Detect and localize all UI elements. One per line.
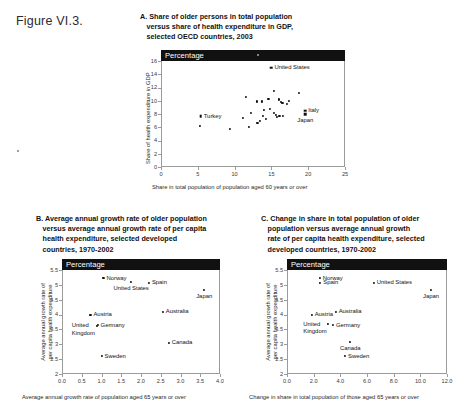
point-label-italy: Italy — [308, 107, 319, 113]
y-tick-mark — [59, 374, 62, 375]
x-tick-mark — [340, 374, 341, 377]
y-tick-mark — [158, 88, 161, 89]
data-point-italy — [304, 109, 307, 112]
point-label-sweden: Sweden — [105, 353, 126, 359]
x-tick-label: 4.0 — [216, 378, 224, 384]
data-point — [273, 90, 275, 92]
data-point — [278, 115, 280, 117]
point-label-spain: Spain — [323, 279, 338, 285]
x-tick-mark — [271, 167, 272, 170]
x-tick-label: 0.0 — [58, 378, 66, 384]
y-tick-mark — [59, 344, 62, 345]
x-tick-mark — [287, 374, 288, 377]
y-tick-mark — [59, 329, 62, 330]
x-tick-mark — [198, 167, 199, 170]
x-tick-label: 3.0 — [177, 378, 185, 384]
data-point-spain — [319, 282, 321, 284]
data-point — [265, 118, 267, 120]
y-tick-mark — [284, 344, 287, 345]
data-point-japan — [430, 289, 432, 291]
data-point-japan — [304, 113, 307, 116]
data-point-spain — [148, 282, 150, 284]
panel-c-plot: Percentage 0.02.04.06.08.010.012.022.533… — [261, 214, 455, 416]
y-tick-mark — [284, 329, 287, 330]
y-tick-mark — [59, 270, 62, 271]
data-point — [298, 92, 300, 94]
panel-c-y-axis-title-line-1: Average annual growth rate of — [265, 283, 271, 361]
y-tick-mark — [158, 61, 161, 62]
chart-panel-c: C. Change in share in total population o… — [261, 214, 455, 416]
data-point — [242, 117, 244, 119]
panel-b-y-axis-title-line-1: Average annual growth rate of — [40, 283, 46, 361]
data-point — [262, 115, 264, 117]
x-tick-label: 3.5 — [196, 378, 204, 384]
panel-a-plot: Percentage 05101520250246810121416United… — [140, 12, 355, 202]
panel-b-overlay: 0.00.51.01.52.02.53.03.54.022.533.544.55… — [36, 214, 226, 416]
y-tick-mark — [158, 74, 161, 75]
panel-b-x-axis-title: Average annual growth rate of population… — [22, 394, 186, 400]
point-label-turkey: Turkey — [204, 113, 222, 119]
panel-a-x-axis-title: Share in total population of population … — [152, 184, 307, 190]
panel-b-plot: Percentage 0.00.51.01.52.02.53.03.54.022… — [36, 214, 226, 416]
x-tick-label: 0 — [159, 171, 162, 177]
y-tick-mark — [158, 114, 161, 115]
data-point-austria — [311, 314, 313, 316]
point-label-spain: Spain — [152, 279, 167, 285]
x-tick-label: 2.0 — [310, 378, 318, 384]
y-tick-mark — [284, 374, 287, 375]
data-point-canada — [168, 342, 170, 344]
y-tick-mark — [59, 300, 62, 301]
x-tick-mark — [447, 374, 448, 377]
data-point — [256, 100, 258, 102]
point-label-austria: Austria — [93, 311, 111, 317]
x-tick-label: 1.0 — [98, 378, 106, 384]
x-tick-mark — [314, 374, 315, 377]
data-point-turkey — [199, 115, 202, 118]
data-point-australia — [162, 311, 164, 313]
x-tick-label: 0.0 — [283, 378, 291, 384]
panel-b-y-axis-title-line-2: per capita health expenditure — [47, 285, 53, 360]
data-point-sweden — [100, 355, 102, 357]
x-tick-label: 2.0 — [137, 378, 145, 384]
data-point-united-states — [130, 281, 132, 283]
data-point-canada — [349, 341, 351, 343]
data-point-japan — [203, 289, 205, 291]
data-point — [261, 100, 263, 102]
x-tick-label: 10.0 — [415, 378, 426, 384]
y-tick-mark — [284, 300, 287, 301]
data-point-norway — [319, 277, 321, 279]
y-tick-mark — [158, 101, 161, 102]
y-tick-mark — [158, 167, 161, 168]
point-label-japan: Japan — [423, 293, 439, 299]
y-tick-mark — [158, 154, 161, 155]
x-tick-mark — [141, 374, 142, 377]
x-tick-mark — [121, 374, 122, 377]
x-tick-mark — [82, 374, 83, 377]
x-tick-label: 10 — [231, 171, 237, 177]
data-point — [245, 96, 247, 98]
data-point — [282, 115, 284, 117]
point-label-united-states: United States — [113, 285, 148, 291]
y-tick-mark — [158, 141, 161, 142]
y-tick-mark — [284, 270, 287, 271]
data-point-united-states — [270, 66, 273, 69]
x-tick-label: 25 — [342, 171, 348, 177]
y-tick-mark — [284, 285, 287, 286]
x-tick-label: 2.5 — [157, 378, 165, 384]
point-label-japan: Japan — [297, 117, 313, 123]
point-label-germany: Germany — [101, 322, 125, 328]
x-tick-mark — [161, 374, 162, 377]
point-label-germany: Germany — [336, 322, 360, 328]
x-tick-label: 0.5 — [78, 378, 86, 384]
x-tick-mark — [102, 374, 103, 377]
data-point-united-kingdom — [96, 325, 98, 327]
x-tick-mark — [62, 374, 63, 377]
data-point-norway — [102, 277, 104, 279]
data-point — [286, 103, 288, 105]
data-point — [269, 108, 271, 110]
point-label-canada: Canada — [340, 345, 361, 351]
x-tick-mark — [220, 374, 221, 377]
data-point — [199, 125, 201, 127]
x-tick-mark — [345, 167, 346, 170]
point-label-united-kingdom: UnitedKingdom — [303, 321, 326, 336]
